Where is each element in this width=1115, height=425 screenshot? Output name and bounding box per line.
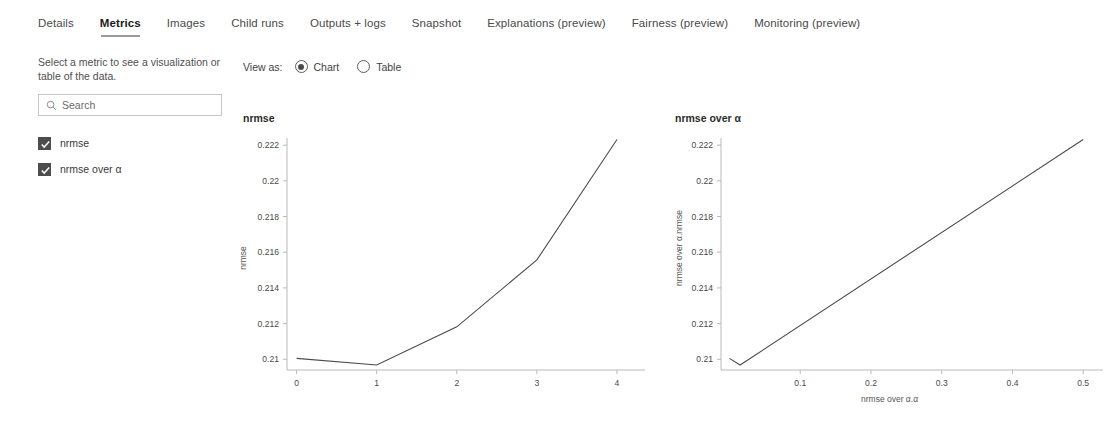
radio-chart-icon[interactable] (295, 60, 308, 73)
tab-label: Explanations (preview) (487, 17, 606, 29)
check-icon (40, 139, 51, 150)
svg-text:0.4: 0.4 (1006, 378, 1018, 388)
tab-fairness[interactable]: Fairness (preview) (632, 0, 728, 39)
svg-text:0: 0 (294, 378, 299, 388)
radio-table-icon[interactable] (357, 60, 370, 73)
chart-panel-nrmse-over-alpha: nrmse over α 0.210.2120.2140.2160.2180.2… (675, 112, 1111, 418)
svg-text:0.22: 0.22 (696, 176, 713, 186)
tab-metrics[interactable]: Metrics (100, 0, 141, 39)
tab-details[interactable]: Details (38, 0, 74, 39)
radio-option-table[interactable]: Table (357, 60, 401, 73)
metric-list: nrmse nrmse over α (38, 130, 234, 182)
tab-explanations[interactable]: Explanations (preview) (487, 0, 606, 39)
tab-label: Child runs (231, 17, 284, 29)
plot-svg-nrmse-over-alpha: 0.210.2120.2140.2160.2180.220.2220.10.20… (675, 128, 1111, 418)
tab-label: Images (167, 17, 205, 29)
radio-table-label: Table (376, 61, 401, 73)
svg-text:0.212: 0.212 (257, 319, 279, 329)
svg-text:4: 4 (615, 378, 620, 388)
tab-label: Snapshot (412, 17, 461, 29)
y-axis-label-nrmse-over-alpha: nrmse over α.nrmse (674, 210, 684, 286)
tab-label: Metrics (100, 17, 141, 29)
svg-text:0.2: 0.2 (865, 378, 877, 388)
view-as-control: View as: Chart Table (243, 60, 419, 73)
svg-text:0.3: 0.3 (936, 378, 948, 388)
svg-text:0.218: 0.218 (691, 212, 713, 222)
tab-label: Fairness (preview) (632, 17, 728, 29)
svg-text:0.216: 0.216 (257, 247, 279, 257)
svg-text:0.5: 0.5 (1077, 378, 1089, 388)
svg-text:0.214: 0.214 (691, 283, 713, 293)
y-axis-label-nrmse: nrmse (238, 246, 248, 270)
svg-text:1: 1 (374, 378, 379, 388)
plot-area-nrmse-over-alpha[interactable]: 0.210.2120.2140.2160.2180.220.2220.10.20… (675, 128, 1111, 418)
svg-text:0.214: 0.214 (257, 283, 279, 293)
radio-chart-label: Chart (314, 61, 340, 73)
chart-title-nrmse: nrmse (243, 112, 653, 124)
chart-title-nrmse-over-alpha: nrmse over α (675, 112, 1111, 124)
check-icon (40, 165, 51, 176)
svg-text:3: 3 (534, 378, 539, 388)
tab-strip: Details Metrics Images Child runs Output… (0, 0, 1115, 44)
svg-text:0.212: 0.212 (691, 319, 713, 329)
tab-label: Details (38, 17, 74, 29)
metric-selector-help: Select a metric to see a visualization o… (38, 55, 230, 83)
view-as-label: View as: (243, 61, 283, 73)
svg-text:0.21: 0.21 (262, 354, 279, 364)
tab-child-runs[interactable]: Child runs (231, 0, 284, 39)
metric-item-nrmse[interactable]: nrmse (38, 130, 234, 156)
checkbox-nrmse[interactable] (38, 137, 51, 150)
radio-option-chart[interactable]: Chart (295, 60, 340, 73)
metric-label: nrmse (60, 137, 89, 149)
svg-text:0.21: 0.21 (696, 354, 713, 364)
svg-text:0.1: 0.1 (794, 378, 806, 388)
metric-selector-panel: Select a metric to see a visualization o… (38, 55, 234, 182)
plot-area-nrmse[interactable]: 0.210.2120.2140.2160.2180.220.22201234 n… (243, 128, 653, 418)
metric-label: nrmse over α (60, 163, 122, 175)
tab-label: Monitoring (preview) (754, 17, 860, 29)
svg-text:0.218: 0.218 (257, 212, 279, 222)
search-icon (46, 100, 57, 111)
svg-text:0.222: 0.222 (257, 140, 279, 150)
tab-snapshot[interactable]: Snapshot (412, 0, 461, 39)
plot-svg-nrmse: 0.210.2120.2140.2160.2180.220.22201234 (243, 128, 653, 418)
metric-item-nrmse-over-alpha[interactable]: nrmse over α (38, 156, 234, 182)
x-axis-label-nrmse-over-alpha: nrmse over α.α (861, 394, 918, 404)
svg-text:0.222: 0.222 (691, 140, 713, 150)
checkbox-nrmse-over-alpha[interactable] (38, 163, 51, 176)
chart-panel-nrmse: nrmse 0.210.2120.2140.2160.2180.220.2220… (243, 112, 653, 418)
search-box[interactable] (38, 94, 222, 116)
svg-text:0.22: 0.22 (262, 176, 279, 186)
tab-monitoring[interactable]: Monitoring (preview) (754, 0, 860, 39)
search-input[interactable] (62, 99, 212, 111)
tab-images[interactable]: Images (167, 0, 205, 39)
svg-text:0.216: 0.216 (691, 247, 713, 257)
svg-text:2: 2 (454, 378, 459, 388)
tab-label: Outputs + logs (310, 17, 386, 29)
tab-outputs-logs[interactable]: Outputs + logs (310, 0, 386, 39)
